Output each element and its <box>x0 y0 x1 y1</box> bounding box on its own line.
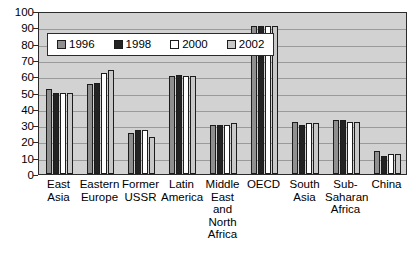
x-axis-label-line: Sub- <box>325 178 366 191</box>
legend-swatch-icon <box>227 40 236 49</box>
bar <box>333 120 339 174</box>
bar <box>46 89 52 174</box>
legend-swatch-icon <box>170 40 179 49</box>
bar <box>374 151 380 174</box>
x-axis-label: EastAsia <box>38 178 79 203</box>
bar <box>388 154 394 174</box>
bar <box>299 125 305 174</box>
legend-item: 1998 <box>114 39 152 50</box>
y-tick-mark <box>33 142 38 143</box>
bar <box>67 93 73 175</box>
bar-group <box>367 13 407 174</box>
y-tick-mark <box>33 12 38 13</box>
x-axis-label-line: Middle <box>202 178 243 191</box>
x-axis-label: China <box>366 178 407 191</box>
x-axis-label-line: USSR <box>120 191 161 204</box>
legend-label: 1996 <box>69 39 95 50</box>
bar <box>169 76 175 174</box>
bar <box>183 76 189 174</box>
x-axis-label-line: America <box>161 191 202 204</box>
legend-item: 2002 <box>227 39 265 50</box>
y-tick-label: 70 <box>0 56 34 66</box>
y-tick-mark <box>33 110 38 111</box>
bar <box>224 125 230 174</box>
bar <box>176 75 182 174</box>
y-tick-mark <box>33 126 38 127</box>
y-tick-mark <box>33 175 38 176</box>
y-tick-label: 30 <box>0 121 34 131</box>
bar <box>354 122 360 174</box>
y-tick-label: 80 <box>0 40 34 50</box>
x-axis-label-line: Latin <box>161 178 202 191</box>
x-axis-label-line: South <box>284 178 325 191</box>
bar <box>128 133 134 174</box>
bar <box>292 122 298 174</box>
bar <box>306 123 312 174</box>
x-axis-label-line: Asia <box>38 191 79 204</box>
x-axis-label-line: Saharan <box>325 191 366 204</box>
x-axis-label-line: Africa <box>325 203 366 216</box>
y-tick-mark <box>33 159 38 160</box>
y-tick-mark <box>33 45 38 46</box>
bar <box>340 120 346 174</box>
bar <box>94 83 100 174</box>
chart-legend: 1996199820002002 <box>47 33 274 56</box>
y-tick-label: 50 <box>0 89 34 99</box>
x-axis-label-line: OECD <box>243 178 284 191</box>
x-axis-label-line: East and <box>202 191 243 216</box>
legend-label: 2000 <box>182 39 208 50</box>
x-axis-label: LatinAmerica <box>161 178 202 203</box>
legend-item: 2000 <box>170 39 208 50</box>
bar <box>135 130 141 174</box>
y-tick-label: 10 <box>0 154 34 164</box>
bar <box>395 154 401 174</box>
y-tick-mark <box>33 94 38 95</box>
y-tick-mark <box>33 61 38 62</box>
x-axis-label: FormerUSSR <box>120 178 161 203</box>
y-tick-label: 90 <box>0 23 34 33</box>
x-axis-label-line: Eastern <box>79 178 120 191</box>
bar <box>53 93 59 175</box>
bar <box>108 70 114 174</box>
bar <box>142 130 148 174</box>
bar <box>381 156 387 174</box>
bar <box>101 73 107 174</box>
x-axis-label-line: East <box>38 178 79 191</box>
y-tick-label: 40 <box>0 105 34 115</box>
legend-label: 1998 <box>126 39 152 50</box>
x-axis-label-line: Former <box>120 178 161 191</box>
x-axis-label-line: Asia <box>284 191 325 204</box>
x-axis-label-line: China <box>366 178 407 191</box>
legend-swatch-icon <box>57 40 66 49</box>
legend-item: 1996 <box>57 39 95 50</box>
x-axis-label: SouthAsia <box>284 178 325 203</box>
bar <box>347 122 353 174</box>
x-axis-label: EasternEurope <box>79 178 120 203</box>
bar-group <box>285 13 326 174</box>
bar <box>190 76 196 174</box>
x-axis-label: MiddleEast andNorthAfrica <box>202 178 243 241</box>
y-tick-label: 0 <box>0 170 34 180</box>
bar-group <box>326 13 367 174</box>
x-axis-label: OECD <box>243 178 284 191</box>
legend-label: 2002 <box>239 39 265 50</box>
bar <box>313 123 319 174</box>
bar <box>231 123 237 174</box>
x-axis-labels: EastAsiaEasternEuropeFormerUSSRLatinAmer… <box>38 178 407 254</box>
bar <box>60 93 66 175</box>
bar <box>149 137 155 174</box>
x-axis-label: Sub-SaharanAfrica <box>325 178 366 216</box>
y-tick-mark <box>33 28 38 29</box>
x-axis-label-line: North <box>202 216 243 229</box>
x-axis-label-line: Africa <box>202 228 243 241</box>
legend-swatch-icon <box>114 40 123 49</box>
y-axis: 1009080706050403020100 <box>0 12 34 175</box>
bar <box>217 125 223 174</box>
y-tick-mark <box>33 77 38 78</box>
bar-chart: 1009080706050403020100 1996199820002002 … <box>0 0 417 258</box>
y-tick-label: 60 <box>0 72 34 82</box>
y-tick-label: 20 <box>0 137 34 147</box>
x-axis-label-line: Europe <box>79 191 120 204</box>
bar <box>87 84 93 174</box>
y-tick-label: 100 <box>0 7 34 17</box>
